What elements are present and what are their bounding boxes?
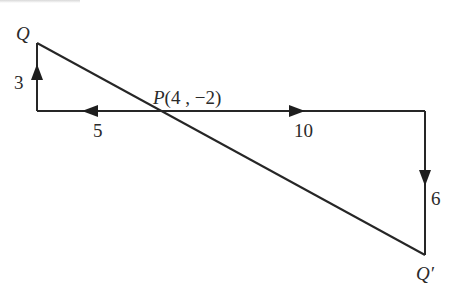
segment-label-10: 10: [294, 120, 313, 141]
segment-label-3: 3: [14, 72, 24, 93]
segment-label-6: 6: [431, 188, 441, 209]
point-letter-p: P: [152, 87, 165, 108]
point-label-q: Q: [16, 23, 30, 44]
point-label-p: P(4 , −2): [152, 87, 221, 109]
point-coords-p: (4 , −2): [165, 87, 222, 109]
translation-diagram: Q 3 5 P(4 , −2) 10 6 Q′: [0, 0, 455, 291]
arrow-left-icon: [82, 105, 98, 117]
arrow-down-icon: [419, 170, 431, 186]
line-q-to-q-prime: [37, 43, 425, 255]
segment-label-5: 5: [93, 120, 103, 141]
arrow-up-icon: [31, 64, 43, 80]
arrow-right-icon: [289, 105, 305, 117]
point-label-q-prime: Q′: [416, 263, 435, 284]
